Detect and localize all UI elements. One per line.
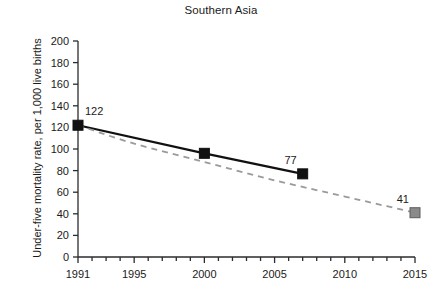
target-marker-square: [410, 208, 420, 218]
y-axis-tick-label: 40: [57, 208, 69, 220]
series-group: [73, 120, 420, 217]
data-point-label: 41: [397, 193, 409, 205]
data-point-label: 77: [284, 154, 296, 166]
data-point-label: 122: [85, 105, 103, 117]
y-axis-tick-label: 100: [51, 143, 69, 155]
axes-group: 0204060801001201401601802001991199520002…: [51, 35, 428, 280]
x-axis-tick-label: 2005: [262, 268, 286, 280]
y-axis-tick-label: 60: [57, 186, 69, 198]
x-axis-tick-label: 2000: [192, 268, 216, 280]
x-axis-tick-label: 1991: [66, 268, 90, 280]
x-axis-tick-label: 2015: [403, 268, 427, 280]
chart-figure: Southern Asia Under-five mortality rate,…: [0, 0, 442, 293]
y-axis-tick-label: 140: [51, 100, 69, 112]
y-axis-tick-label: 0: [63, 251, 69, 263]
x-axis-tick-label: 2010: [333, 268, 357, 280]
x-axis-tick-label: 1995: [122, 268, 146, 280]
data-marker-square: [199, 148, 209, 158]
plot-area: 0204060801001201401601802001991199520002…: [0, 0, 442, 293]
target-trend-line: [78, 125, 415, 212]
y-axis-tick-label: 20: [57, 229, 69, 241]
y-axis-tick-label: 160: [51, 78, 69, 90]
y-axis-tick-label: 180: [51, 57, 69, 69]
y-axis-tick-label: 120: [51, 121, 69, 133]
data-marker-square: [298, 169, 308, 179]
y-axis-tick-label: 200: [51, 35, 69, 47]
observed-data-line: [78, 125, 303, 174]
data-point-labels: 1227741: [85, 105, 409, 204]
data-marker-square: [73, 120, 83, 130]
y-axis-tick-label: 80: [57, 165, 69, 177]
